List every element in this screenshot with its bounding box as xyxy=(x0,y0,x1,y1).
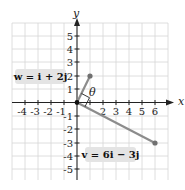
x-axis-arrow-icon xyxy=(166,100,174,106)
vector-diagram: -4 -3 -2 -1 2 3 4 5 6 5 4 3 2 1 -1 -2 -3… xyxy=(0,0,185,190)
x-tick-label: -4 xyxy=(17,106,27,117)
y-tick-label: 5 xyxy=(67,31,73,42)
x-tick-label: 3 xyxy=(113,106,119,117)
y-tick-label: 3 xyxy=(67,57,73,68)
y-tick-label: 4 xyxy=(67,44,73,55)
x-tick-label: -2 xyxy=(43,106,53,117)
y-tick-label: -4 xyxy=(63,151,73,162)
y-tick-label: -2 xyxy=(63,124,73,135)
y-tick-label: -5 xyxy=(63,164,73,175)
vector-v-label: v = 6i − 3j xyxy=(81,149,140,160)
y-tick-label: -3 xyxy=(63,138,73,149)
x-tick-label: 4 xyxy=(126,106,132,117)
y-tick-label: 2 xyxy=(67,71,73,82)
x-axis-label: x xyxy=(178,95,185,108)
vector-w-label: w = i + 2j xyxy=(13,71,68,82)
origin-point xyxy=(75,100,80,105)
y-axis-label: y xyxy=(72,7,80,20)
y-tick-label: 1 xyxy=(67,84,73,95)
y-tick-label: -1 xyxy=(63,111,73,122)
x-tick-label: -3 xyxy=(30,106,40,117)
vector-w-endpoint xyxy=(87,73,92,78)
x-tick-label: 5 xyxy=(139,106,145,117)
vector-v-endpoint xyxy=(152,140,157,145)
angle-theta-label: θ xyxy=(89,86,96,99)
x-tick-label: 6 xyxy=(152,106,158,117)
